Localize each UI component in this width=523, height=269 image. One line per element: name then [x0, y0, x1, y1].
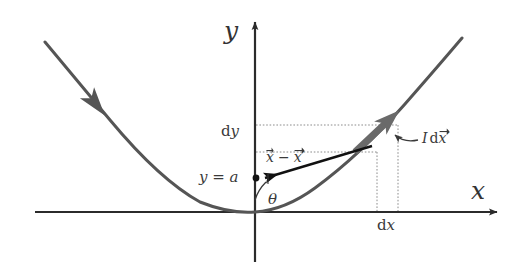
vector-x: x — [266, 150, 274, 164]
current-vector-x: x′ — [439, 131, 450, 145]
dx-variable: x — [387, 216, 395, 234]
y-axis-label: y — [224, 18, 238, 43]
dy-label: dy — [221, 124, 239, 139]
vector-x-symbol: x — [266, 149, 274, 165]
vector-minus-operator: − — [278, 149, 290, 165]
theta-angle-arc — [255, 182, 266, 200]
current-element-arrow — [355, 104, 405, 152]
vector-x-prime-symbol: x — [294, 149, 302, 165]
physics-diagram: y x dy dx y = a θ x −x′ Idx′ — [0, 0, 523, 269]
dy-variable: y — [231, 122, 239, 140]
parabola-curve — [45, 38, 462, 212]
current-symbol: I — [422, 130, 428, 146]
theta-label: θ — [268, 192, 277, 207]
guide-lines-vertical — [377, 125, 398, 212]
x-axis-label: x — [471, 178, 485, 203]
dx-differential-d: d — [377, 216, 387, 234]
current-differential-d: d — [430, 130, 439, 146]
field-point-dot — [253, 175, 260, 182]
dx-label: dx — [377, 218, 395, 233]
dy-differential-d: d — [221, 122, 231, 140]
separation-vector-label: x −x′ — [266, 150, 305, 164]
field-point-label: y = a — [199, 170, 239, 185]
current-element-label: Idx′ — [422, 131, 450, 145]
vector-x-prime: x′ — [294, 150, 305, 164]
vector-x-prime-mark: ′ — [302, 149, 305, 165]
current-vector-prime-mark: ′ — [446, 130, 449, 146]
